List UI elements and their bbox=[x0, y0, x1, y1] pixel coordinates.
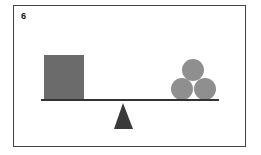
square-weight bbox=[44, 55, 84, 100]
balance-scale-diagram bbox=[0, 0, 261, 155]
ball-top bbox=[182, 59, 204, 81]
fulcrum-triangle bbox=[114, 103, 133, 129]
balance-beam bbox=[41, 99, 219, 101]
ball-bottom-right bbox=[194, 78, 216, 100]
ball-bottom-left bbox=[171, 78, 193, 100]
